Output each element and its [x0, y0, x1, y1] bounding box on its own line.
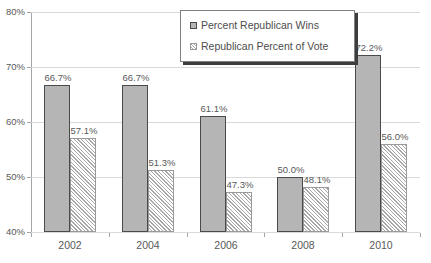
x-axis-tick-label: 2002 — [31, 240, 109, 251]
x-axis-tick-mark — [109, 233, 110, 237]
x-axis-tick-mark — [31, 233, 32, 237]
bar-chart: 40%50%60%70%80% 20022004200620082010 66.… — [0, 0, 431, 263]
chart-legend: Percent Republican Wins Republican Perce… — [180, 10, 355, 62]
y-axis-tick-label: 70% — [6, 62, 25, 72]
y-axis-tick-label: 60% — [6, 117, 25, 127]
legend-item-label: Percent Republican Wins — [201, 20, 319, 31]
y-axis-tick-mark — [27, 67, 31, 68]
bar-value-label: 47.3% — [221, 180, 259, 190]
y-axis-tick-mark — [27, 177, 31, 178]
bar — [277, 177, 303, 232]
x-axis-tick-label: 2004 — [109, 240, 187, 251]
bar — [303, 187, 329, 232]
legend-item-republican-percent-of-vote: Republican Percent of Vote — [190, 41, 328, 52]
x-axis-tick-mark — [420, 233, 421, 237]
bar — [70, 138, 96, 232]
bar-value-label: 57.1% — [65, 126, 103, 136]
bar-value-label: 51.3% — [143, 158, 181, 168]
y-axis-tick-mark — [27, 122, 31, 123]
y-axis-tick-mark — [27, 12, 31, 13]
bar-value-label: 61.1% — [195, 104, 233, 114]
bar-value-label: 56.0% — [376, 132, 414, 142]
y-axis-tick-label: 80% — [6, 7, 25, 17]
bar — [355, 55, 381, 232]
bar — [226, 192, 252, 232]
legend-item-percent-republican-wins: Percent Republican Wins — [190, 20, 319, 31]
gridline — [31, 232, 420, 233]
x-axis-tick-mark — [342, 233, 343, 237]
x-axis-tick-label: 2008 — [264, 240, 342, 251]
y-axis-tick-label: 40% — [6, 227, 25, 237]
bar — [200, 116, 226, 232]
bar — [381, 144, 407, 232]
bar-value-label: 66.7% — [117, 73, 155, 83]
bar-value-label: 72.2% — [350, 43, 388, 53]
x-axis-tick-label: 2010 — [342, 240, 420, 251]
x-axis-tick-mark — [187, 233, 188, 237]
x-axis-tick-mark — [264, 233, 265, 237]
bar-value-label: 48.1% — [298, 175, 336, 185]
y-axis-tick-label: 50% — [6, 172, 25, 182]
solid-gray-square-icon — [190, 22, 197, 29]
legend-item-label: Republican Percent of Vote — [201, 41, 328, 52]
bar — [148, 170, 174, 232]
hatched-square-icon — [190, 43, 197, 50]
bar-value-label: 66.7% — [39, 73, 77, 83]
x-axis-tick-label: 2006 — [187, 240, 265, 251]
bar — [44, 85, 70, 232]
